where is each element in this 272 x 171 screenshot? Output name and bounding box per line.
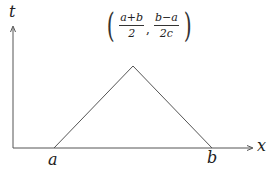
close-paren: )	[183, 8, 191, 42]
peak-y-numerator: b−a	[154, 11, 179, 26]
open-paren: (	[107, 8, 115, 42]
peak-y-fraction: b−a 2c	[154, 11, 179, 40]
point-b-label: b	[207, 150, 217, 166]
peak-x-fraction: a+b 2	[119, 11, 144, 40]
x-axis-label: x	[257, 138, 266, 154]
peak-x-denominator: 2	[128, 26, 135, 40]
triangle-graph	[54, 66, 212, 148]
coordinate-separator: ,	[146, 22, 150, 36]
t-axis-label: t	[9, 4, 15, 20]
peak-x-numerator: a+b	[119, 11, 144, 26]
peak-y-denominator: 2c	[160, 26, 173, 40]
peak-coordinate-label: ( a+b 2 , b−a 2c )	[104, 8, 194, 42]
point-a-label: a	[48, 152, 58, 168]
